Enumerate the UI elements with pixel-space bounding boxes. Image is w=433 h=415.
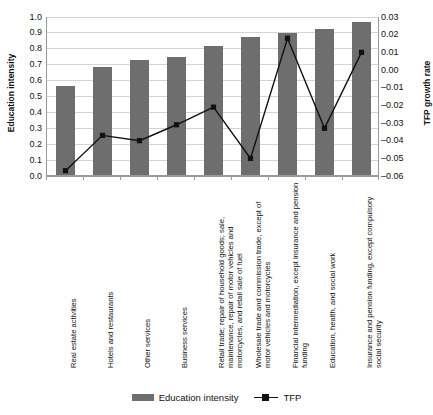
x-category-label: Wholesale trade and commission trade, ex… <box>254 182 272 368</box>
bar-swatch-icon <box>132 394 154 401</box>
x-category-label: Business services <box>180 182 189 368</box>
y-tick-label-right: 0.00 <box>381 66 399 75</box>
y-tick-label-right: 0.03 <box>381 13 399 22</box>
x-category-label: Education, health, and social work <box>328 182 337 368</box>
y-tick-label-right: 0.01 <box>381 48 399 57</box>
tfp-line-path <box>66 38 362 171</box>
line-marker-icon <box>254 393 278 402</box>
x-axis-category-labels: Real estate activitiesHotels and restaur… <box>46 180 379 370</box>
y-tick-label-right: 0.02 <box>381 30 399 39</box>
tfp-data-point-marker <box>137 138 142 143</box>
tfp-data-point-marker <box>248 156 253 161</box>
y-tick-label-right: –0.06 <box>381 172 404 181</box>
x-category-label: Insurance and pension funding, except co… <box>365 182 383 368</box>
x-category-label: Financial intermediation, except insuran… <box>291 182 309 368</box>
legend-label-education-intensity: Education intensity <box>159 392 239 403</box>
y-axis-right-ticks: –0.06–0.05–0.04–0.03–0.02–0.010.000.010.… <box>381 0 411 415</box>
tfp-data-point-marker <box>174 122 179 127</box>
legend-item-education-intensity: Education intensity <box>132 392 239 403</box>
y-axis-right-title: TFP growth rate <box>422 38 432 148</box>
tfp-data-point-marker <box>63 168 68 173</box>
tfp-data-point-marker <box>322 126 327 131</box>
y-tick-label-right: –0.01 <box>381 83 404 92</box>
legend-label-tfp: TFP <box>283 392 301 403</box>
tfp-data-point-marker <box>100 133 105 138</box>
x-category-label: Other services <box>143 182 152 368</box>
line-series-tfp <box>47 17 380 176</box>
y-tick-label-left: 0.6 <box>29 76 42 85</box>
y-tick-label-left: 0.5 <box>29 92 42 101</box>
y-axis-left-ticks: 0.00.10.20.30.40.50.60.70.80.91.0 <box>14 0 42 415</box>
y-tick-label-right: –0.03 <box>381 119 404 128</box>
plot-area <box>46 17 379 176</box>
x-category-label: Retail trade; repair of household goods;… <box>217 182 245 368</box>
y-tick-label-right: –0.02 <box>381 101 404 110</box>
x-category-label: Real estate activities <box>69 182 78 368</box>
y-tick-label-left: 0.3 <box>29 124 42 133</box>
y-tick-label-left: 0.9 <box>29 28 42 37</box>
y-tick-label-left: 0.0 <box>29 172 42 181</box>
y-tick-label-right: –0.05 <box>381 154 404 163</box>
y-tick-label-left: 1.0 <box>29 13 42 22</box>
y-tick-label-left: 0.8 <box>29 44 42 53</box>
y-tick-label-right: –0.04 <box>381 136 404 145</box>
y-tick-label-left: 0.7 <box>29 60 42 69</box>
y-tick-label-left: 0.4 <box>29 108 42 117</box>
legend-item-tfp: TFP <box>254 392 301 403</box>
tfp-data-point-marker <box>359 50 364 55</box>
chart-legend: Education intensity TFP <box>0 388 433 406</box>
x-category-label: Hotels and restaurants <box>106 182 115 368</box>
tfp-data-point-marker <box>211 105 216 110</box>
chart-container: Education intensity TFP growth rate 0.00… <box>0 0 433 415</box>
tfp-data-point-marker <box>285 36 290 41</box>
y-tick-label-left: 0.2 <box>29 140 42 149</box>
y-tick-label-left: 0.1 <box>29 156 42 165</box>
